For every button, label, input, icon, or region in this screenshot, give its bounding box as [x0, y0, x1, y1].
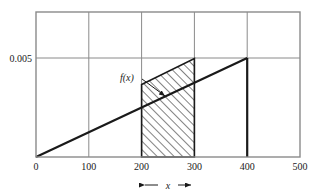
- x-tick-label-200: 200: [134, 161, 149, 172]
- x-tick-label-300: 300: [187, 161, 202, 172]
- x-tick-label-400: 400: [240, 161, 255, 172]
- x-tick-label-0: 0: [34, 161, 39, 172]
- x-tick-label-500: 500: [293, 161, 308, 172]
- x-tick-label-100: 100: [81, 161, 96, 172]
- probability-density-chart: f(x) 0.005 0 100 200 300 400 500 x: [0, 0, 325, 195]
- x-span-annotation: x: [145, 180, 191, 191]
- x-span-label: x: [165, 180, 171, 191]
- y-tick-label-0005: 0.005: [10, 53, 33, 64]
- x-axis-tick-labels: 0 100 200 300 400 500: [34, 161, 308, 172]
- function-label: f(x): [120, 72, 135, 84]
- figure-container: f(x) 0.005 0 100 200 300 400 500 x: [0, 0, 325, 195]
